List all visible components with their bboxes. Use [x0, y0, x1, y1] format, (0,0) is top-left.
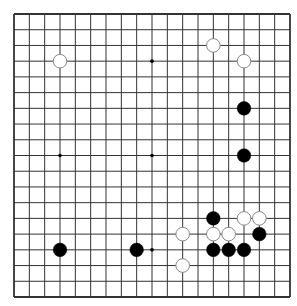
board-intersection[interactable]	[52, 273, 67, 289]
board-intersection[interactable]	[267, 100, 282, 116]
board-intersection[interactable]	[267, 179, 282, 195]
board-intersection[interactable]	[6, 69, 21, 85]
board-intersection[interactable]	[68, 100, 83, 116]
board-intersection[interactable]	[98, 273, 113, 289]
board-intersection[interactable]	[22, 132, 37, 148]
board-intersection[interactable]	[175, 6, 190, 22]
board-intersection[interactable]	[267, 195, 282, 211]
board-intersection[interactable]	[98, 38, 113, 54]
board-intersection[interactable]	[206, 22, 221, 38]
board-intersection[interactable]	[68, 116, 83, 132]
board-intersection[interactable]	[114, 148, 129, 164]
board-intersection[interactable]	[190, 195, 205, 211]
board-intersection[interactable]	[22, 148, 37, 164]
board-intersection[interactable]	[190, 242, 205, 258]
board-intersection[interactable]	[160, 242, 175, 258]
board-intersection[interactable]	[175, 273, 190, 289]
board-intersection[interactable]	[252, 132, 267, 148]
board-intersection[interactable]	[160, 53, 175, 69]
board-intersection[interactable]	[160, 289, 175, 305]
board-intersection[interactable]	[6, 148, 21, 164]
board-intersection[interactable]	[68, 22, 83, 38]
board-intersection[interactable]	[252, 38, 267, 54]
board-intersection[interactable]	[98, 85, 113, 101]
board-intersection[interactable]	[160, 6, 175, 22]
board-intersection[interactable]	[144, 226, 159, 242]
board-intersection[interactable]	[98, 242, 113, 258]
board-intersection[interactable]	[160, 163, 175, 179]
board-intersection[interactable]	[252, 85, 267, 101]
board-intersection[interactable]	[68, 132, 83, 148]
board-intersection[interactable]	[282, 53, 297, 69]
board-intersection[interactable]	[236, 226, 251, 242]
board-intersection[interactable]	[267, 273, 282, 289]
board-intersection[interactable]	[6, 258, 21, 274]
board-intersection[interactable]	[22, 226, 37, 242]
board-intersection[interactable]	[282, 38, 297, 54]
board-intersection[interactable]	[114, 132, 129, 148]
board-intersection[interactable]	[175, 163, 190, 179]
board-intersection[interactable]	[252, 273, 267, 289]
board-intersection[interactable]	[22, 242, 37, 258]
board-intersection[interactable]	[83, 226, 98, 242]
board-intersection[interactable]	[144, 6, 159, 22]
board-intersection[interactable]	[175, 289, 190, 305]
board-intersection[interactable]	[68, 163, 83, 179]
board-intersection[interactable]	[52, 6, 67, 22]
board-intersection[interactable]	[221, 289, 236, 305]
board-intersection[interactable]	[68, 6, 83, 22]
board-intersection[interactable]	[282, 132, 297, 148]
board-intersection[interactable]	[98, 179, 113, 195]
board-intersection[interactable]	[236, 38, 251, 54]
board-intersection[interactable]	[267, 148, 282, 164]
board-intersection[interactable]	[236, 6, 251, 22]
board-intersection[interactable]	[52, 38, 67, 54]
board-intersection[interactable]	[114, 289, 129, 305]
board-intersection[interactable]	[37, 6, 52, 22]
board-intersection[interactable]	[144, 273, 159, 289]
board-intersection[interactable]	[221, 100, 236, 116]
board-intersection[interactable]	[282, 100, 297, 116]
board-intersection[interactable]	[52, 69, 67, 85]
board-intersection[interactable]	[160, 22, 175, 38]
board-intersection[interactable]	[22, 195, 37, 211]
board-intersection[interactable]	[37, 132, 52, 148]
board-intersection[interactable]	[6, 100, 21, 116]
board-intersection[interactable]	[160, 179, 175, 195]
board-intersection[interactable]	[236, 195, 251, 211]
board-intersection[interactable]	[22, 163, 37, 179]
board-intersection[interactable]	[37, 148, 52, 164]
board-intersection[interactable]	[37, 100, 52, 116]
board-intersection[interactable]	[68, 211, 83, 227]
board-intersection[interactable]	[83, 242, 98, 258]
go-board[interactable]	[0, 0, 297, 306]
board-intersection[interactable]	[175, 85, 190, 101]
board-intersection[interactable]	[68, 179, 83, 195]
board-intersection[interactable]	[22, 22, 37, 38]
board-intersection[interactable]	[98, 100, 113, 116]
board-intersection[interactable]	[206, 163, 221, 179]
board-intersection[interactable]	[190, 211, 205, 227]
board-intersection[interactable]	[83, 85, 98, 101]
board-intersection[interactable]	[114, 116, 129, 132]
board-intersection[interactable]	[68, 38, 83, 54]
board-intersection[interactable]	[206, 148, 221, 164]
board-intersection[interactable]	[190, 163, 205, 179]
board-intersection[interactable]	[221, 85, 236, 101]
board-intersection[interactable]	[52, 100, 67, 116]
board-intersection[interactable]	[267, 22, 282, 38]
board-intersection[interactable]	[267, 242, 282, 258]
board-intersection[interactable]	[221, 22, 236, 38]
board-intersection[interactable]	[114, 69, 129, 85]
board-intersection[interactable]	[22, 6, 37, 22]
board-intersection[interactable]	[129, 258, 144, 274]
board-intersection[interactable]	[98, 69, 113, 85]
board-intersection[interactable]	[98, 132, 113, 148]
board-intersection[interactable]	[236, 289, 251, 305]
board-intersection[interactable]	[221, 211, 236, 227]
board-intersection[interactable]	[206, 69, 221, 85]
board-intersection[interactable]	[267, 85, 282, 101]
board-intersection[interactable]	[160, 100, 175, 116]
board-intersection[interactable]	[83, 289, 98, 305]
board-intersection[interactable]	[129, 132, 144, 148]
